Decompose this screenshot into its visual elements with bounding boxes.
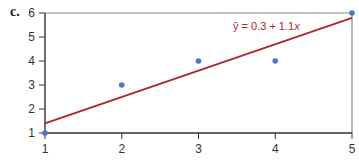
y-tick-label: 3 — [28, 78, 35, 92]
y-tick-label: 2 — [28, 102, 35, 116]
plot-frame — [45, 13, 352, 133]
y-tick-label: 1 — [28, 126, 35, 140]
regression-line — [45, 18, 352, 124]
y-axis: 123456 — [28, 6, 45, 140]
y-tick-label: 6 — [28, 6, 35, 20]
data-point — [42, 130, 48, 136]
y-tick-label: 4 — [28, 54, 35, 68]
x-tick-label: 2 — [118, 142, 125, 156]
data-point — [272, 58, 278, 64]
y-tick-label: 5 — [28, 30, 35, 44]
data-point — [349, 10, 355, 16]
data-points — [42, 10, 355, 136]
regression-equation: ŷ = 0.3 + 1.1x — [233, 20, 300, 32]
scatter-chart: 123456 12345 ŷ = 0.3 + 1.1x — [0, 0, 359, 165]
data-point — [196, 58, 202, 64]
x-tick-label: 3 — [195, 142, 202, 156]
x-tick-label: 4 — [272, 142, 279, 156]
data-point — [119, 82, 125, 88]
x-tick-label: 1 — [42, 142, 49, 156]
x-axis: 12345 — [42, 133, 356, 156]
x-tick-label: 5 — [349, 142, 356, 156]
regression-line-path — [45, 18, 352, 124]
